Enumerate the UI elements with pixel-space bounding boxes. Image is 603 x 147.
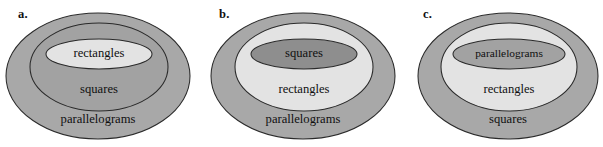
panel-c-outer-label: squares [489,112,527,126]
panel-c-venn-svg: squares rectangles parallelograms [0,0,603,147]
panel-c-middle-label: rectangles [483,82,534,96]
nested-set-diagrams-figure: a. parallelograms squares rectangles b. … [0,0,603,147]
panel-c-inner-label: parallelograms [475,47,543,59]
